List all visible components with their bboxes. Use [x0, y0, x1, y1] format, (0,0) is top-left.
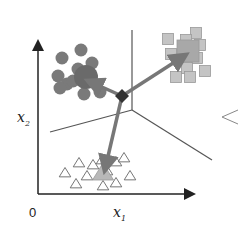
square-point — [171, 72, 182, 83]
triangle-cluster — [59, 153, 136, 190]
triangle-point — [70, 179, 82, 188]
triangle-point — [73, 158, 85, 167]
boundary-right — [132, 110, 212, 160]
circle-point — [54, 82, 67, 95]
side-fragment-icon — [222, 110, 238, 124]
square-point — [163, 34, 174, 45]
x-axis-label: x1 — [113, 205, 126, 226]
circle-cluster — [52, 44, 107, 101]
arrow-to-triangles — [106, 96, 122, 165]
square-point — [200, 66, 211, 77]
square-cluster — [163, 28, 211, 83]
circle-point — [56, 52, 69, 65]
y-axis-label: x2 — [17, 110, 30, 131]
cluster-diagram — [0, 0, 239, 230]
square-point — [166, 49, 177, 60]
prototype-arrows — [93, 58, 181, 165]
triangle-point — [124, 171, 136, 180]
circle-point — [75, 44, 88, 57]
circle-point — [78, 88, 91, 101]
origin-label: 0 — [29, 205, 36, 220]
square-point — [191, 28, 202, 39]
triangle-point — [59, 168, 71, 177]
square-point — [185, 72, 196, 83]
triangle-point — [97, 181, 109, 190]
triangle-point — [81, 171, 93, 180]
triangle-point — [118, 153, 130, 162]
